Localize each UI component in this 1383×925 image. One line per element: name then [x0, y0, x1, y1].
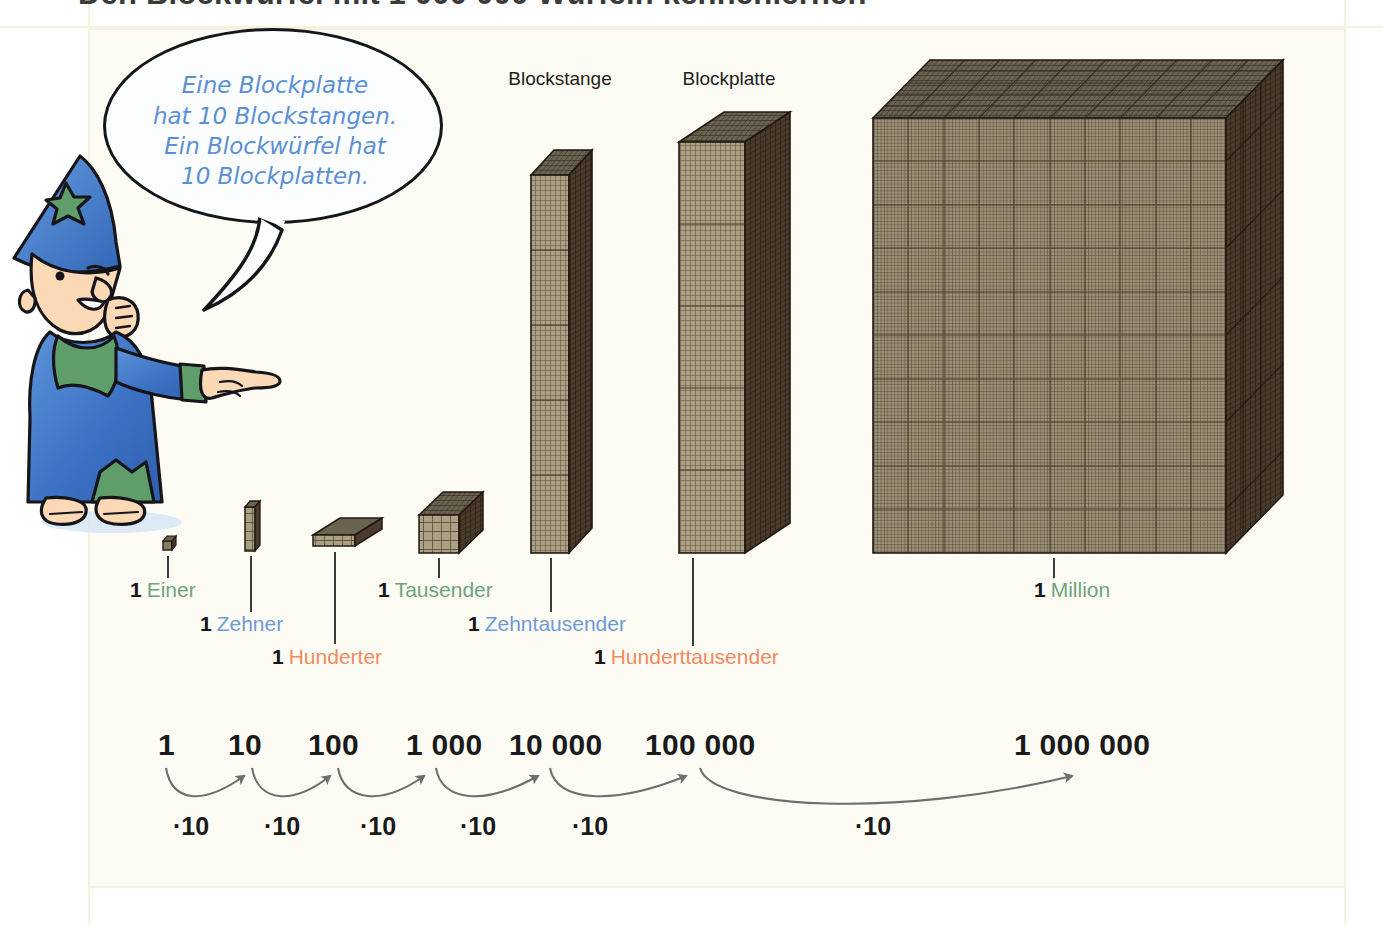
place-value-million: 1Million	[1034, 578, 1110, 602]
multiplier-2: ·10	[264, 812, 300, 841]
leader-line-hunderttausender	[692, 558, 694, 646]
place-value-count: 1	[594, 645, 606, 668]
block-einer	[163, 536, 176, 550]
place-value-count: 1	[130, 578, 142, 601]
place-value-count: 1	[200, 612, 212, 635]
multiplier-6: ·10	[855, 812, 891, 841]
place-value-name: Hunderter	[289, 645, 382, 668]
multiplier-3: ·10	[360, 812, 396, 841]
leader-line-hunderter	[334, 552, 336, 644]
multiplier-1: ·10	[173, 812, 209, 841]
place-value-count: 1	[378, 578, 390, 601]
place-value-count: 1	[468, 612, 480, 635]
leader-line-million	[1053, 558, 1055, 578]
leader-line-einer	[167, 556, 169, 578]
place-value-name: Million	[1051, 578, 1111, 601]
leader-line-zehntausender	[550, 558, 552, 612]
multiplication-arrows	[0, 690, 1383, 870]
place-value-name: Tausender	[395, 578, 493, 601]
place-value-zehner: 1Zehner	[200, 612, 283, 636]
place-value-count: 1	[272, 645, 284, 668]
place-value-name: Hunderttausender	[611, 645, 779, 668]
place-value-name: Einer	[147, 578, 196, 601]
place-value-hunderttausender: 1Hunderttausender	[594, 645, 779, 669]
block-zehntausender	[531, 150, 592, 553]
place-value-name: Zehntausender	[485, 612, 626, 635]
place-value-zehntausender: 1Zehntausender	[468, 612, 626, 636]
leader-line-zehner	[250, 556, 252, 612]
block-group	[0, 0, 1383, 600]
block-million	[873, 60, 1283, 553]
block-hunderttausender	[679, 112, 790, 553]
place-value-einer: 1Einer	[130, 578, 196, 602]
place-value-tausender: 1Tausender	[378, 578, 493, 602]
place-value-count: 1	[1034, 578, 1046, 601]
place-value-name: Zehner	[217, 612, 284, 635]
worksheet-page: Den Blockwürfel mit 1 000 000 Würfeln ke…	[0, 0, 1383, 925]
block-zehner	[245, 501, 260, 551]
multiplier-4: ·10	[460, 812, 496, 841]
multiplier-5: ·10	[572, 812, 608, 841]
leader-line-tausender	[438, 558, 440, 578]
block-tausender	[419, 492, 483, 553]
block-hunderter	[313, 518, 382, 546]
place-value-hunderter: 1Hunderter	[272, 645, 382, 669]
